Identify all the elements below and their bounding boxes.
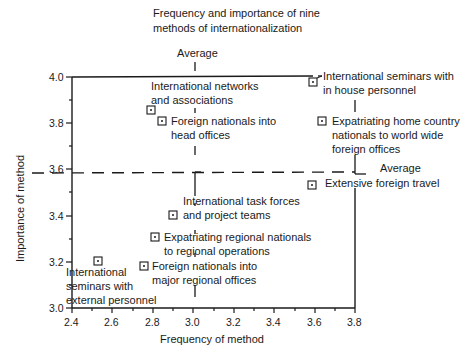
chart-title-line-1: Frequency and importance of nine (153, 7, 320, 19)
point-marker-expatriating-home-country (318, 117, 326, 125)
label-extensive-foreign-travel: Extensive foreign travel (325, 177, 439, 189)
point-marker-seminars-in-house (309, 78, 317, 86)
y-average-line (32, 172, 355, 173)
x-axis-label: Frequency of method (160, 333, 264, 345)
x-tick-label-3-2: 3.2 (226, 316, 241, 328)
y-tick-label-3-0: 3.0 (49, 302, 64, 314)
y-average-label: Average (380, 162, 421, 174)
scatter-chart: Frequency and importance of nine methods… (0, 0, 471, 356)
point-marker-international-networks (147, 106, 155, 114)
label-foreign-nationals-regional-2: major regional offices (152, 274, 257, 286)
label-seminars-external-1: International (66, 266, 127, 278)
x-tick-label-2-6: 2.6 (104, 316, 119, 328)
label-expatriating-regional-1: Expatriating regional nationals (164, 231, 312, 243)
x-tick-label-2-4: 2.4 (64, 316, 79, 328)
y-axis-label: Importance of method (14, 155, 26, 262)
point-marker-extensive-foreign-travel (308, 181, 316, 189)
point-marker-foreign-nationals-head-offices (158, 117, 166, 125)
label-seminars-external-3: external personnel (66, 294, 157, 306)
y-tick-label-4-0: 4.0 (49, 71, 64, 83)
point-marker-expatriating-regional (151, 233, 159, 241)
plot-top-border (72, 76, 313, 77)
point-marker-seminars-external (94, 257, 102, 265)
label-expatriating-regional-2: to regional operations (164, 245, 270, 257)
label-seminars-in-house-2: in house personnel (323, 84, 416, 96)
label-task-forces-2: and project teams (183, 209, 271, 221)
label-foreign-nationals-head-2: head offices (171, 129, 231, 141)
label-foreign-nationals-regional-1: Foreign nationals into (152, 260, 257, 272)
label-expatriating-home-2: nationals to world wide (332, 129, 443, 141)
y-tick-label-3-2: 3.2 (49, 256, 64, 268)
label-seminars-external-2: seminars with (66, 280, 133, 292)
point-marker-foreign-nationals-regional (140, 262, 148, 270)
label-expatriating-home-3: foreign offices (332, 143, 401, 155)
x-tick-label-2-8: 2.8 (145, 316, 160, 328)
x-tick-label-3-0: 3.0 (185, 316, 200, 328)
x-tick-label-3-6: 3.6 (307, 316, 322, 328)
label-task-forces-1: International task forces (183, 195, 300, 207)
label-international-networks-2: and associations (151, 94, 233, 106)
point-marker-task-forces (169, 211, 177, 219)
label-foreign-nationals-head-1: Foreign nationals into (171, 115, 276, 127)
x-average-label: Average (177, 47, 218, 59)
x-axis-ticks (72, 308, 355, 313)
label-international-networks-1: International networks (151, 80, 259, 92)
x-tick-label-3-8: 3.8 (347, 316, 362, 328)
label-seminars-in-house-1: International seminars with (323, 70, 454, 82)
label-expatriating-home-1: Expatriating home country (332, 115, 460, 127)
x-tick-label-3-4: 3.4 (266, 316, 281, 328)
y-tick-label-3-4: 3.4 (49, 210, 64, 222)
chart-title-line-2: methods of internationalization (153, 22, 302, 34)
y-tick-label-3-8: 3.8 (49, 117, 64, 129)
